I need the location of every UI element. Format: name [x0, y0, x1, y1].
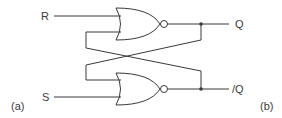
q-output-label: Q	[235, 19, 244, 30]
top-nor-bubble	[161, 21, 168, 28]
r-input-label: R	[41, 11, 49, 22]
s-input-label: S	[42, 92, 49, 103]
bottom-nor-bubble	[161, 86, 168, 93]
q-junction-dot	[199, 22, 203, 26]
bottom-nor-gate	[116, 73, 160, 105]
qbar-junction-dot	[199, 87, 203, 91]
top-nor-gate	[116, 8, 160, 40]
qbar-output-label: /Q	[232, 84, 244, 95]
panel-label-a: (a)	[11, 101, 24, 112]
panel-label-b: (b)	[260, 101, 273, 112]
